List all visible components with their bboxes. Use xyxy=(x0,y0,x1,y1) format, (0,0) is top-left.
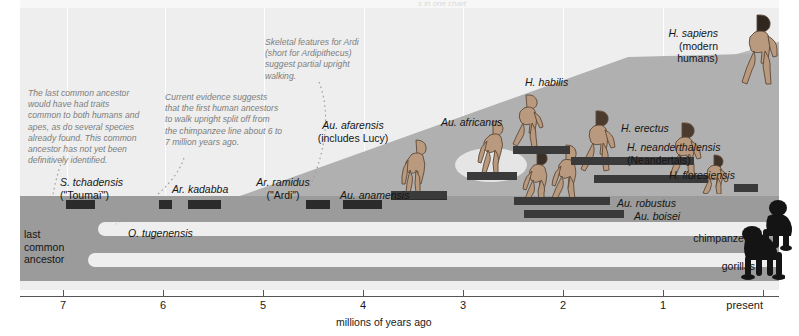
species-label-h-habilis: H. habilis xyxy=(525,76,568,89)
species-binomial: Au. boisei xyxy=(634,210,680,222)
axis-tick-label: 3 xyxy=(460,299,466,311)
species-label-o-tugenensis: O. tugenensis xyxy=(128,227,193,240)
axis-tick-label: 1 xyxy=(660,299,666,311)
note-ardi-skeleton: Skeletal features for Ardi (short for Ar… xyxy=(265,37,359,82)
species-binomial: H. sapiens xyxy=(668,27,718,39)
axis-tick-label: present xyxy=(726,299,763,311)
species-label-h-neanderthalensis: H. neanderthalensis(Neandertals) xyxy=(627,141,720,166)
species-label-h-sapiens: H. sapiens(modern humans) xyxy=(637,27,718,65)
axis-tick-label: 7 xyxy=(60,299,66,311)
axis-tick xyxy=(563,290,564,297)
ape-label-gorillas: gorillas xyxy=(722,260,755,273)
species-label-s-tchadensis: S. tchadensis("Toumaï") xyxy=(60,176,123,201)
time-axis-line xyxy=(20,296,779,297)
species-label-ar-ramidus: Ar. ramidus("Ardi") xyxy=(256,176,309,201)
species-binomial: H. habilis xyxy=(525,76,568,88)
species-binomial: Au. africanus xyxy=(441,116,502,128)
species-binomial: Au. robustus xyxy=(617,197,676,209)
species-common-name: (includes Lucy) xyxy=(318,132,389,144)
axis-tick-label: 4 xyxy=(360,299,366,311)
axis-tick-label: 5 xyxy=(260,299,266,311)
species-common-name: (modern humans) xyxy=(677,40,718,65)
axis-tick xyxy=(163,290,164,297)
species-label-au-africanus: Au. africanus xyxy=(441,116,502,129)
species-binomial: Au. afarensis xyxy=(322,119,383,131)
species-common-name: (Neandertals) xyxy=(627,154,691,166)
species-binomial: H. neanderthalensis xyxy=(627,141,720,153)
axis-tick-label: 6 xyxy=(160,299,166,311)
species-common-name: ("Ardi") xyxy=(266,189,299,201)
note-last-common-ancestor: The last common ancestor would have had … xyxy=(28,88,139,166)
axis-tick xyxy=(363,290,364,297)
species-common-name: ("Toumaï") xyxy=(60,189,109,201)
species-binomial: O. tugenensis xyxy=(128,227,193,239)
species-label-h-erectus: H. erectus xyxy=(621,122,669,135)
note-split-timing: Current evidence suggests that the first… xyxy=(165,92,282,148)
species-binomial: Ar. ramidus xyxy=(256,176,309,188)
axis-tick xyxy=(463,290,464,297)
axis-tick xyxy=(663,290,664,297)
axis-tick xyxy=(63,290,64,297)
species-binomial: H. floresiensis xyxy=(669,169,735,181)
axis-title: millions of years ago xyxy=(336,316,432,328)
species-label-au-anamensis: Au. anamensis xyxy=(340,189,409,202)
species-binomial: H. erectus xyxy=(621,122,669,134)
species-label-au-boisei: Au. boisei xyxy=(634,210,680,223)
species-binomial: Au. anamensis xyxy=(340,189,409,201)
last-common-ancestor-label: last common ancestor xyxy=(24,228,64,266)
evolution-timeline-figure: s in one chart xyxy=(0,0,799,336)
axis-tick-label: 2 xyxy=(560,299,566,311)
species-label-h-floresiensis: H. floresiensis xyxy=(669,169,735,182)
species-binomial: S. tchadensis xyxy=(60,176,123,188)
species-label-au-afarensis: Au. afarensis(includes Lucy) xyxy=(318,119,389,144)
axis-tick xyxy=(763,290,764,297)
species-label-au-robustus: Au. robustus xyxy=(617,197,676,210)
ape-label-chimpanzees: chimpanzees xyxy=(693,232,755,245)
species-binomial: Ar. kadabba xyxy=(172,183,228,195)
axis-tick xyxy=(263,290,264,297)
species-label-ar-kadabba: Ar. kadabba xyxy=(172,183,228,196)
